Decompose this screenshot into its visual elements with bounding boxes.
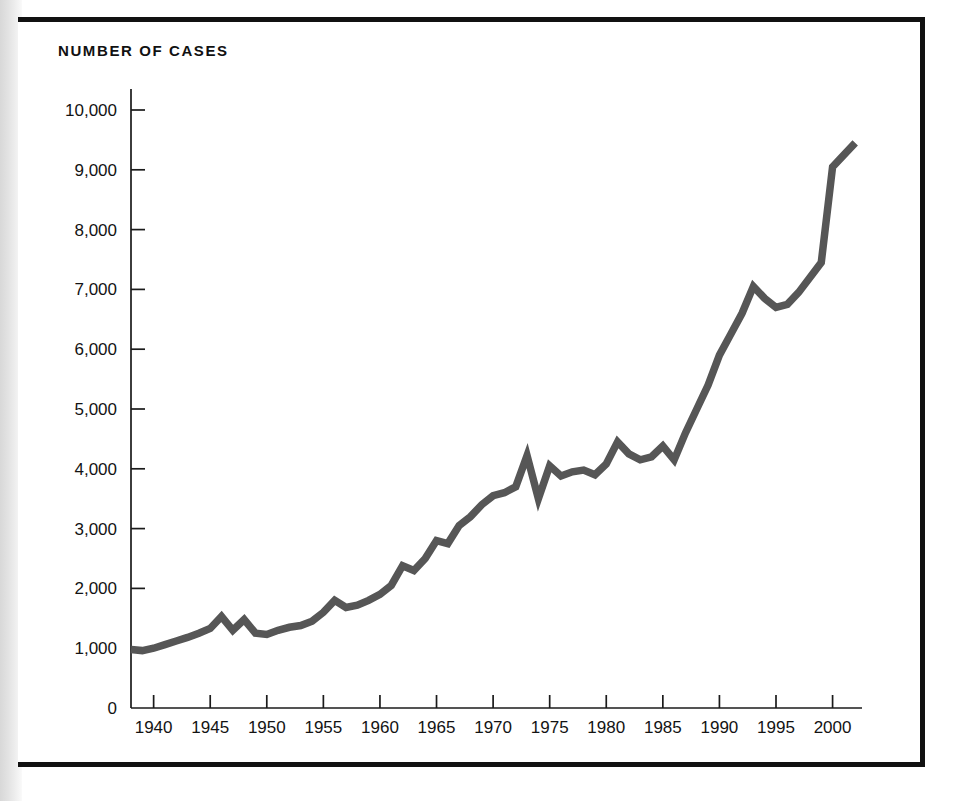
y-axis-tick-label: 0: [108, 699, 117, 718]
x-axis-tick-label: 2000: [814, 718, 852, 737]
y-axis-tick-label: 9,000: [74, 161, 117, 180]
x-axis-tick-label: 1955: [304, 718, 342, 737]
series-line-number-of-cases: [131, 143, 855, 651]
y-axis-tick-label: 1,000: [74, 639, 117, 658]
y-axis-tick-label: 10,000: [65, 101, 117, 120]
x-axis-tick-label: 1980: [587, 718, 625, 737]
line-chart-svg: 01,0002,0003,0004,0005,0006,0007,0008,00…: [0, 0, 960, 801]
x-axis-tick-label: 1990: [701, 718, 739, 737]
y-axis-tick-label: 3,000: [74, 520, 117, 539]
x-axis-tick-label: 1945: [191, 718, 229, 737]
y-axis: 01,0002,0003,0004,0005,0006,0007,0008,00…: [65, 89, 145, 718]
chart-page: NUMBER OF CASES 01,0002,0003,0004,0005,0…: [0, 0, 960, 801]
y-axis-tick-label: 8,000: [74, 221, 117, 240]
x-axis-tick-label: 1970: [474, 718, 512, 737]
x-axis-tick-label: 1965: [418, 718, 456, 737]
x-axis-tick-label: 1960: [361, 718, 399, 737]
y-axis-tick-label: 2,000: [74, 579, 117, 598]
chart-plot-area: 01,0002,0003,0004,0005,0006,0007,0008,00…: [0, 0, 960, 801]
x-axis: 1940194519501955196019651970197519801985…: [131, 695, 862, 737]
y-axis-tick-label: 4,000: [74, 460, 117, 479]
y-axis-tick-label: 7,000: [74, 280, 117, 299]
x-axis-tick-label: 1985: [644, 718, 682, 737]
y-axis-tick-label: 6,000: [74, 340, 117, 359]
x-axis-tick-label: 1975: [531, 718, 569, 737]
x-axis-tick-label: 1950: [248, 718, 286, 737]
y-axis-tick-label: 5,000: [74, 400, 117, 419]
x-axis-tick-label: 1940: [135, 718, 173, 737]
x-axis-tick-label: 1995: [757, 718, 795, 737]
data-series-line: [131, 143, 855, 651]
